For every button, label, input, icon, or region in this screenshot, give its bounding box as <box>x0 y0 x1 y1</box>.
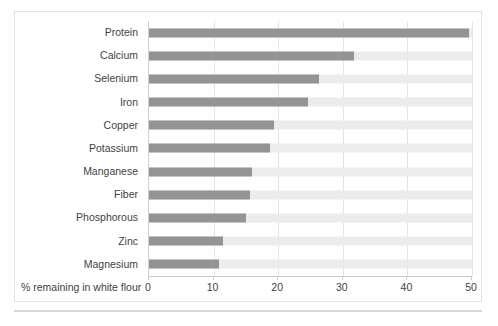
chart-panel: ProteinCalciumSeleniumIronCopperPotassiu… <box>14 11 482 302</box>
x-axis-title: % remaining in white flour <box>21 281 141 293</box>
bar-iron <box>149 98 308 107</box>
bar-row <box>149 137 471 160</box>
bar-magnesium <box>149 260 219 269</box>
bar-fiber <box>149 190 250 199</box>
category-label-iron: Iron <box>15 91 144 114</box>
category-label-magnesium: Magnesium <box>15 253 144 276</box>
x-tick-mark-20 <box>277 276 278 280</box>
plot-area <box>148 21 471 276</box>
bar-row <box>149 230 471 253</box>
bar-potassium <box>149 144 270 153</box>
x-tick-label-30: 30 <box>336 281 348 293</box>
category-label-selenium: Selenium <box>15 67 144 90</box>
category-label-copper: Copper <box>15 114 144 137</box>
x-tick-mark-40 <box>406 276 407 280</box>
bar-row <box>149 183 471 206</box>
figure: ProteinCalciumSeleniumIronCopperPotassiu… <box>0 0 498 326</box>
figure-caption <box>38 315 468 326</box>
bar-row <box>149 160 471 183</box>
bar-rows <box>149 21 471 276</box>
bar-row <box>149 206 471 229</box>
category-label-fiber: Fiber <box>15 183 144 206</box>
x-axis-line <box>148 276 472 277</box>
bar-calcium <box>149 51 354 60</box>
x-tick-mark-0 <box>148 276 149 280</box>
category-label-phosphorous: Phosphorous <box>15 206 144 229</box>
bar-manganese <box>149 167 252 176</box>
bar-row <box>149 253 471 276</box>
category-axis-labels: ProteinCalciumSeleniumIronCopperPotassiu… <box>15 21 144 276</box>
bar-selenium <box>149 74 319 83</box>
bar-row <box>149 114 471 137</box>
category-label-potassium: Potassium <box>15 137 144 160</box>
x-tick-mark-30 <box>342 276 343 280</box>
gridline-50 <box>472 21 473 276</box>
category-label-protein: Protein <box>15 21 144 44</box>
x-tick-label-20: 20 <box>271 281 283 293</box>
bar-copper <box>149 121 274 130</box>
bar-row <box>149 21 471 44</box>
x-tick-label-50: 50 <box>465 281 477 293</box>
bar-protein <box>149 28 469 37</box>
bar-phosphorous <box>149 213 246 222</box>
x-tick-label-10: 10 <box>207 281 219 293</box>
bar-row <box>149 67 471 90</box>
x-tick-mark-50 <box>471 276 472 280</box>
bar-zinc <box>149 237 223 246</box>
category-label-calcium: Calcium <box>15 44 144 67</box>
bar-row <box>149 44 471 67</box>
category-label-zinc: Zinc <box>15 230 144 253</box>
x-tick-label-40: 40 <box>401 281 413 293</box>
x-tick-mark-10 <box>213 276 214 280</box>
x-tick-label-0: 0 <box>145 281 151 293</box>
caption-divider <box>14 310 482 312</box>
bar-row <box>149 91 471 114</box>
category-label-manganese: Manganese <box>15 160 144 183</box>
